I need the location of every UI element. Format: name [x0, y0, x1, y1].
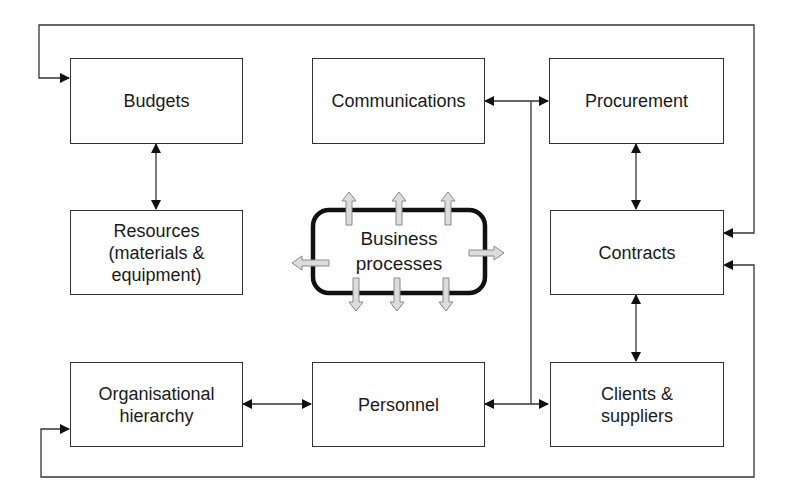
node-clients-suppliers: Clients & suppliers: [550, 362, 724, 447]
node-label: Personnel: [358, 394, 439, 416]
node-budgets: Budgets: [70, 58, 243, 144]
arrowhead-icon: [723, 260, 733, 270]
node-label: Organisational hierarchy: [98, 383, 214, 427]
node-procurement: Procurement: [549, 58, 724, 144]
business-processes-label: Business processes: [313, 226, 485, 276]
node-label: Communications: [331, 90, 465, 112]
node-label: Procurement: [585, 90, 688, 112]
node-organisational-hierarchy: Organisational hierarchy: [70, 362, 243, 447]
arrowhead-icon: [723, 228, 733, 238]
node-communications: Communications: [312, 58, 485, 144]
node-label: Resources (materials & equipment): [108, 220, 204, 286]
node-resources: Resources (materials & equipment): [70, 210, 243, 295]
node-label: Contracts: [598, 242, 675, 264]
node-label: Clients & suppliers: [601, 383, 673, 427]
node-contracts: Contracts: [550, 210, 724, 295]
node-label: Budgets: [123, 90, 189, 112]
node-personnel: Personnel: [312, 362, 485, 447]
